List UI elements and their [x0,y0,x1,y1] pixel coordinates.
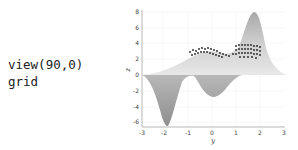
svg-text:2: 2 [258,129,262,136]
svg-text:-3: -3 [139,129,145,136]
svg-text:-2: -2 [161,129,167,136]
svg-text:-1: -1 [185,129,191,136]
svg-text:-6: -6 [133,118,139,125]
svg-text:3: 3 [282,129,286,136]
z-axis-ticks: 8 6 4 2 0 -2 -4 -6 [133,8,139,125]
surface-upper [142,12,286,75]
svg-text:1: 1 [234,129,238,136]
svg-text:-2: -2 [133,87,139,94]
surface-plot: 8 6 4 2 0 -2 -4 -6 -3 -2 -1 0 1 2 3 y z [0,0,298,150]
x-axis-label: y [210,137,216,145]
svg-text:0: 0 [135,71,139,78]
svg-text:-4: -4 [133,103,139,110]
surface-lower-lobe [142,75,242,126]
svg-text:8: 8 [135,8,139,15]
svg-text:0: 0 [210,129,214,136]
svg-text:4: 4 [135,39,139,46]
svg-text:6: 6 [135,24,139,31]
y-axis-ticks: -3 -2 -1 0 1 2 3 [139,129,286,136]
svg-text:2: 2 [135,55,139,62]
z-axis-label: z [124,68,132,73]
